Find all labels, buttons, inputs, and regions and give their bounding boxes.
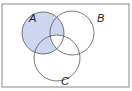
label-b: B <box>97 12 104 24</box>
venn-diagram: A B C <box>0 0 132 91</box>
label-c: C <box>61 75 69 87</box>
label-a: A <box>28 12 36 24</box>
